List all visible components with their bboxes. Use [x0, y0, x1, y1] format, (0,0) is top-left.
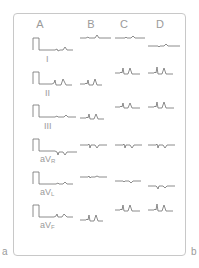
ecg-trace-lead-i	[33, 35, 180, 51]
ecg-trace-lead-avf	[33, 204, 173, 221]
ecg-trace-lead-avl	[33, 172, 175, 189]
ecg-trace-lead-avr	[33, 139, 175, 155]
ecg-traces	[0, 0, 199, 268]
ecg-trace-lead-iii	[33, 102, 174, 119]
ecg-trace-lead-ii	[33, 67, 173, 85]
